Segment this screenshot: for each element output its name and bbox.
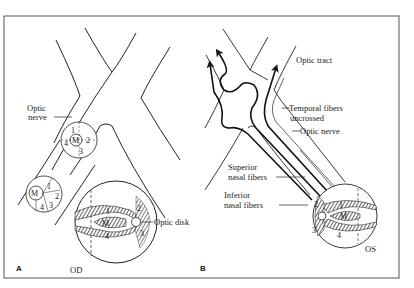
inferior-nasal-label-line1: Inferior — [224, 190, 250, 200]
quadrant-label: 3 — [49, 201, 53, 210]
quadrant-label: 4 — [40, 203, 44, 212]
os-label: OS — [365, 244, 376, 254]
optic-nerve-label-line2: nerve — [28, 112, 47, 122]
quadrant-label: 4 — [64, 139, 68, 148]
quadrant-label: 1 — [47, 182, 51, 191]
macular-label: M — [72, 136, 79, 145]
quadrant-label: 3 — [79, 147, 83, 156]
macular-label: M — [31, 189, 38, 198]
quadrant-label: 1 — [106, 207, 110, 216]
inferior-nasal-label-line2: nasal fibers — [224, 200, 263, 210]
optic-tract-label: Optic tract — [296, 55, 333, 65]
temporal-fibers-label-line2: uncrossed — [290, 113, 325, 123]
macular-label: M — [102, 219, 109, 228]
quadrant-label: 1 — [71, 126, 75, 135]
quadrant-label: 3 — [312, 226, 316, 235]
quadrant-label: 2 — [137, 204, 141, 213]
quadrant-label: 2 — [55, 192, 59, 201]
macular-label: M — [340, 212, 347, 221]
optic-nerve-label-b: Optic nerve — [300, 126, 340, 136]
quadrant-label: 2 — [314, 200, 318, 209]
quadrant-label: 3 — [140, 229, 144, 238]
temporal-fibers-label-line1: Temporal fibers — [289, 103, 343, 113]
optic-disk-label: Optic disk — [154, 217, 190, 227]
optic-pathway-figure: 1 2 3 4 M 1 2 3 4 M 1 2 3 4 M Optic nerv… — [0, 0, 414, 288]
quadrant-label: 4 — [337, 231, 341, 240]
superior-nasal-label-line2: nasal fibers — [228, 172, 267, 182]
quadrant-label: 1 — [339, 201, 343, 210]
superior-nasal-label-line1: Superior — [228, 162, 257, 172]
od-label: OD — [70, 265, 82, 275]
panel-a-letter: A — [16, 264, 22, 273]
quadrant-label: 4 — [105, 232, 109, 241]
panel-b-letter: B — [200, 264, 206, 273]
nerve-cross-section-lower: 1 2 3 4 M — [26, 176, 62, 212]
retina-os: 1 2 3 4 M — [312, 184, 377, 248]
quadrant-label: 2 — [86, 136, 90, 145]
nerve-cross-section-upper: 1 2 3 4 M — [61, 122, 97, 158]
